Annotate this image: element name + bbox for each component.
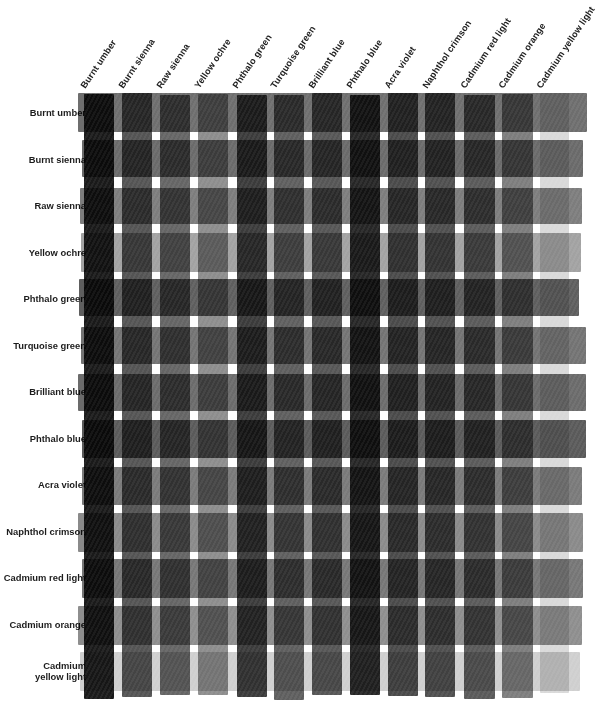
column-label: Burnt umber (79, 38, 118, 90)
row-label: Cadmium yellow light (0, 660, 86, 683)
row-swatch-strip (82, 467, 582, 505)
row-label: Burnt umber (0, 107, 86, 119)
paint-mixing-chart: Burnt umberBurnt siennaRaw siennaYellow … (0, 0, 608, 719)
row-swatch-strip (82, 420, 587, 458)
row-swatch-strip (80, 188, 581, 225)
column-label: Cadmium yellow light (535, 5, 597, 90)
row-swatch-strip (82, 559, 583, 598)
row-swatch-strip (78, 513, 583, 552)
row-label: Cadmium orange (0, 619, 86, 631)
row-swatch-strip (80, 652, 580, 691)
row-label: Phthalo blue (0, 433, 86, 445)
row-swatch-strip (78, 93, 587, 132)
column-label: Raw sienna (155, 42, 191, 90)
swatch-weave-grid (84, 92, 596, 719)
row-label: Phthalo green (0, 293, 86, 305)
row-swatch-strip (81, 233, 580, 272)
row-label-column: Burnt umberBurnt siennaRaw siennaYellow … (0, 92, 90, 719)
row-label: Cadmium red light (0, 572, 86, 584)
column-label: Yellow ochre (193, 37, 233, 90)
row-swatch-strip (79, 279, 579, 316)
row-label: Turquoise green (0, 340, 86, 352)
row-label: Brilliant blue (0, 386, 86, 398)
row-swatch-strip (78, 606, 582, 644)
row-label: Burnt sienna (0, 154, 86, 166)
row-label: Naphthol crimson (0, 526, 86, 538)
column-label: Burnt sienna (117, 37, 157, 90)
row-label: Raw sienna (0, 200, 86, 212)
column-label: Acra violet (383, 45, 418, 90)
column-label: Phthalo green (231, 33, 274, 90)
row-label: Yellow ochre (0, 247, 86, 259)
column-header-band: Burnt umberBurnt siennaRaw siennaYellow … (0, 0, 608, 92)
row-swatch-strip (82, 140, 583, 177)
column-label: Phthalo blue (345, 38, 384, 90)
row-swatch-strip (78, 374, 586, 411)
row-label: Acra violet (0, 479, 86, 491)
row-swatch-strip (81, 327, 586, 364)
column-label: Brilliant blue (307, 38, 347, 90)
